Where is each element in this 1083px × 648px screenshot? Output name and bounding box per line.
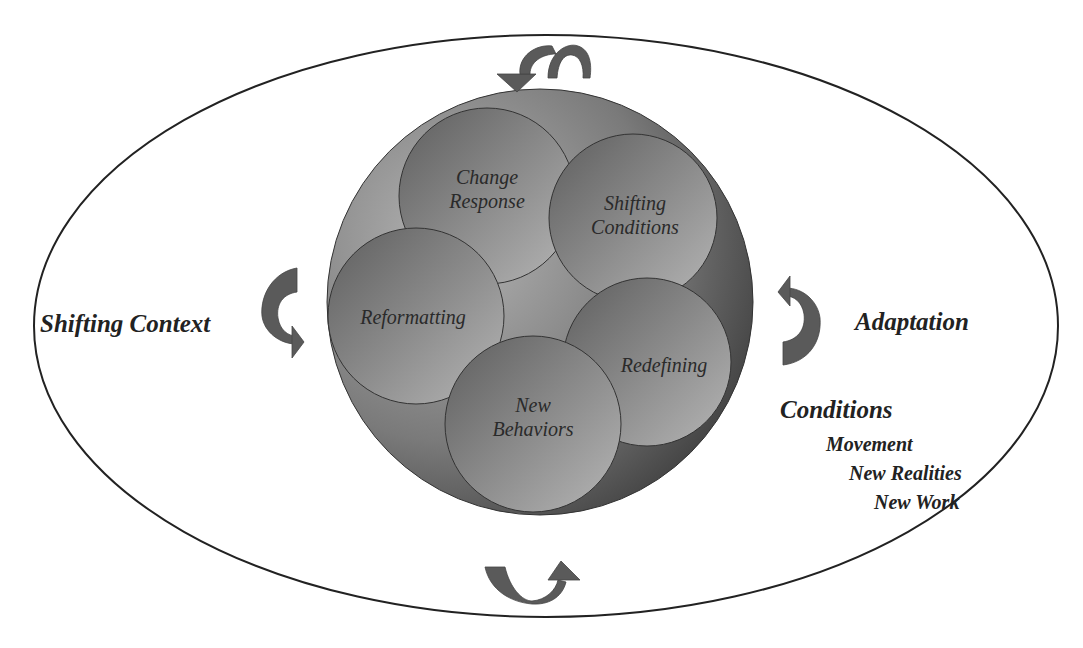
shifting-context-label: Shifting Context xyxy=(40,310,211,337)
conditions-heading: Conditions xyxy=(780,396,893,423)
conditions-item-new-realities: New Realities xyxy=(848,462,962,484)
top-cycle-arrow-icon xyxy=(497,45,591,92)
bubble-label: Change xyxy=(456,166,518,189)
conditions-item-movement: Movement xyxy=(825,433,914,455)
right-cycle-arrow-icon xyxy=(778,276,820,365)
bubble-label: Conditions xyxy=(591,216,679,238)
bubble-new-behaviors: New Behaviors xyxy=(445,336,621,512)
bubble-shifting-conditions: Shifting Conditions xyxy=(549,134,717,302)
bubble-label: Redefining xyxy=(620,354,708,377)
bubble-label: Response xyxy=(448,190,525,213)
adaptation-label: Adaptation xyxy=(853,308,969,335)
bubble-label: Reformatting xyxy=(359,306,466,329)
conditions-item-new-work: New Work xyxy=(873,491,959,513)
bubble-label: Shifting xyxy=(604,192,666,215)
left-cycle-arrow-icon xyxy=(262,268,304,358)
adaptation-diagram: Change Response Shifting Conditions Rede… xyxy=(0,0,1083,648)
bubble-label: Behaviors xyxy=(492,418,573,440)
bubble-label: New xyxy=(514,394,551,416)
bottom-cycle-arrow-icon xyxy=(485,561,580,604)
